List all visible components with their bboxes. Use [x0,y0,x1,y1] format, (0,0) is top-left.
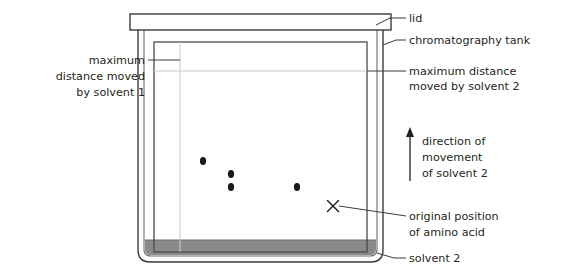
chromatography-tank-outer-wall [138,30,383,262]
amino-acid-spot-3 [228,183,234,191]
label-max-distance-solvent-1-line1: maximum [89,54,145,67]
leader-chromatography-tank [383,40,406,45]
chromatography-paper [154,42,367,252]
label-max-distance-solvent-2-line1: maximum distance [409,65,516,78]
amino-acid-spot-1 [200,157,206,165]
label-original-position-line1: original position [409,210,499,223]
label-solvent-2: solvent 2 [409,252,460,265]
label-direction-line3: of solvent 2 [422,167,488,180]
label-lid: lid [409,12,422,25]
label-direction-line2: movement [422,151,483,164]
label-max-distance-solvent-1-line3: by solvent 1 [76,86,145,99]
tank-lid [130,14,391,30]
direction-arrow [406,127,414,181]
label-max-distance-solvent-1-line2: distance moved [56,70,145,83]
label-direction-line1: direction of [422,135,486,148]
amino-acid-spot-2 [228,170,234,178]
amino-acid-spot-4 [294,183,300,191]
label-max-distance-solvent-2-line2: moved by solvent 2 [409,80,520,93]
chromatography-diagram: lid chromatography tank maximum distance… [0,0,567,279]
amino-acid-spots-group [200,157,300,191]
label-chromatography-tank: chromatography tank [409,34,531,47]
label-original-position-line2: of amino acid [409,226,485,239]
leader-original-position [339,206,406,216]
origin-cross-icon [328,201,339,212]
chromatography-tank-inner-wall [144,30,377,256]
